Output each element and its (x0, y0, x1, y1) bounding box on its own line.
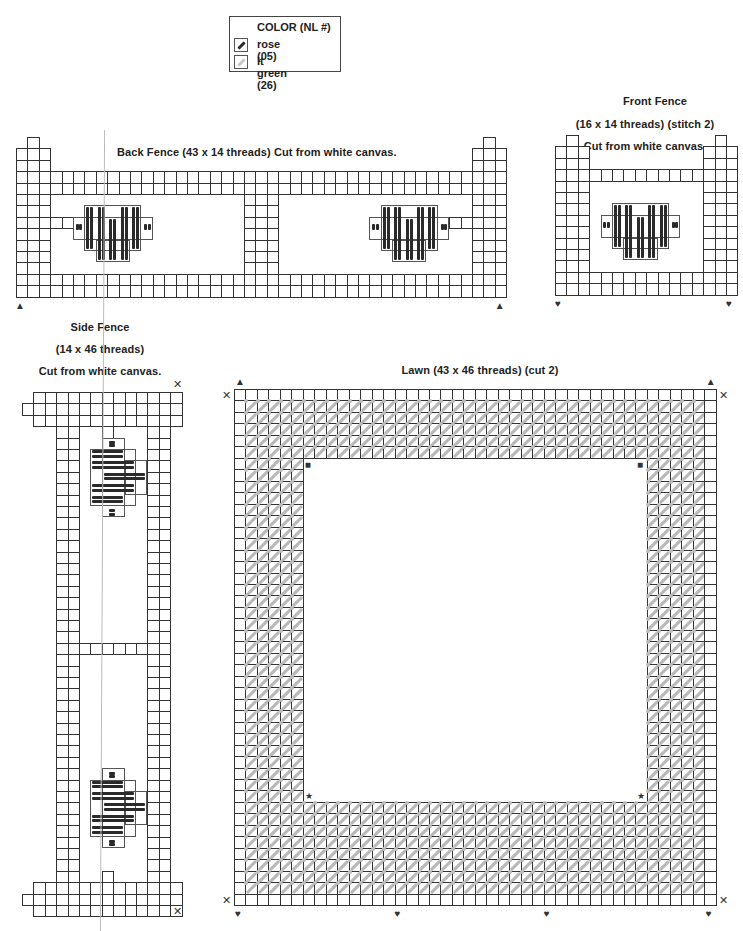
rose-stitch (92, 466, 134, 469)
rose-stitch (92, 489, 134, 492)
rose-stitch (406, 219, 409, 261)
rose-stitch (109, 444, 115, 447)
triangle-icon: ▲ (15, 301, 25, 311)
side-fence-subtitle: (14 x 46 threads) (0, 343, 200, 355)
back-fence-title: Back Fence (43 x 14 threads) Cut from wh… (117, 146, 397, 158)
x-icon: ✕ (719, 895, 728, 905)
rose-stitch (125, 207, 128, 260)
square-icon: ■ (637, 460, 643, 470)
canvas-cell (495, 285, 507, 297)
heart-icon: ♥ (235, 909, 241, 919)
rose-stitch (394, 207, 397, 260)
rose-stitch (625, 205, 628, 258)
triangle-icon: ▲ (706, 377, 716, 387)
rose-stitch (376, 224, 379, 230)
rose-stitch (618, 205, 621, 247)
rose-stitch (410, 219, 413, 261)
color-legend: COLOR (NL #) rose (05) lt green (26) (229, 16, 341, 72)
square-icon: ■ (305, 460, 311, 470)
rose-stitch (104, 803, 146, 806)
rose-stitch (109, 509, 115, 512)
rose-stitch (90, 207, 93, 249)
green-stitch-icon (234, 55, 248, 69)
rose-stitch (421, 207, 424, 260)
rose-stitch (109, 843, 115, 846)
rose-stitch (92, 450, 122, 453)
rose-stitch (113, 219, 116, 261)
canvas-cell (726, 283, 738, 295)
rose-stitch (629, 205, 632, 258)
rose-stitch (660, 205, 663, 247)
x-icon: ✕ (719, 390, 728, 400)
rose-stitch (104, 473, 146, 476)
rose-stitch (444, 224, 447, 230)
canvas-cell (170, 415, 182, 427)
x-icon: ✕ (173, 906, 182, 916)
rose-stitch (92, 831, 122, 834)
front-fence-title: Front Fence (560, 95, 743, 107)
rose-stitch (92, 455, 122, 458)
star-icon: ★ (637, 791, 645, 801)
heart-icon: ♥ (555, 299, 561, 309)
rose-stitch (92, 781, 122, 784)
x-icon: ✕ (173, 379, 182, 389)
heart-icon: ♥ (706, 909, 712, 919)
rose-stitch (144, 224, 147, 230)
rose-stitch (652, 205, 655, 258)
rose-stitch (104, 808, 146, 811)
rose-stitch (607, 222, 610, 228)
rose-stitch-icon (234, 38, 248, 52)
rose-stitch (417, 207, 420, 260)
legend-title: COLOR (NL #) (257, 21, 331, 33)
x-icon: ✕ (222, 895, 231, 905)
rose-stitch (92, 826, 122, 829)
rose-stitch (637, 217, 640, 259)
rose-stitch (121, 207, 124, 260)
rose-stitch (92, 785, 122, 788)
rose-stitch (428, 207, 431, 249)
rose-stitch (79, 224, 82, 230)
front-fence-subtitle: (16 x 14 threads) (stitch 2) (550, 118, 740, 130)
rose-stitch (104, 477, 146, 480)
side-fence-title: Side Fence (0, 321, 200, 333)
rose-stitch (109, 775, 115, 778)
triangle-icon: ▲ (235, 377, 245, 387)
rose-stitch (86, 207, 89, 249)
rose-stitch (98, 207, 101, 260)
side-fence-note: Cut from white canvas. (0, 365, 200, 377)
canvas-cell (704, 894, 716, 906)
rose-stitch (92, 484, 134, 487)
rose-stitch (109, 513, 115, 516)
heart-icon: ♥ (395, 909, 401, 919)
rose-stitch (387, 207, 390, 249)
rose-stitch (432, 207, 435, 249)
lawn-title: Lawn (43 x 46 threads) (cut 2) (380, 364, 580, 376)
rose-stitch (92, 819, 134, 822)
rose-stitch (92, 500, 122, 503)
rose-stitch (92, 815, 134, 818)
rose-stitch (92, 461, 134, 464)
rose-stitch (648, 205, 651, 258)
heart-icon: ♥ (726, 299, 732, 309)
triangle-icon: ▲ (495, 301, 505, 311)
rose-stitch (675, 222, 678, 228)
rose-stitch (92, 797, 134, 800)
x-icon: ✕ (222, 390, 231, 400)
rose-stitch (92, 792, 134, 795)
rose-stitch (148, 224, 151, 230)
rose-stitch (132, 207, 135, 249)
rose-stitch (664, 205, 667, 247)
rose-stitch (383, 207, 386, 249)
legend-label: lt green (26) (257, 55, 287, 91)
rose-stitch (398, 207, 401, 260)
rose-stitch (92, 496, 122, 499)
star-icon: ★ (305, 791, 313, 801)
rose-stitch (109, 219, 112, 261)
rose-stitch (136, 207, 139, 249)
rose-stitch (641, 217, 644, 259)
heart-icon: ♥ (544, 909, 550, 919)
rose-stitch (614, 205, 617, 247)
rose-stitch (372, 224, 375, 230)
